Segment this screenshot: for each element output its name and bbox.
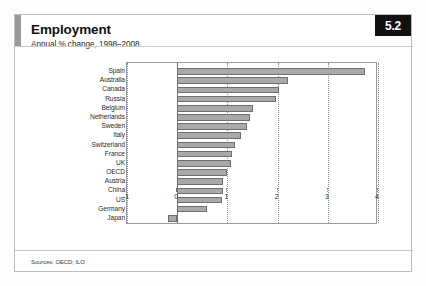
- bar: [177, 142, 235, 149]
- category-label: Spain: [21, 66, 125, 75]
- bar-row: [127, 131, 376, 140]
- bar-row: [127, 141, 376, 150]
- axis-tick-label: 2: [275, 193, 279, 200]
- bar: [177, 87, 278, 94]
- source-note: Sources: OECD; ILO: [31, 259, 85, 265]
- axis-tick-label: 4: [375, 193, 379, 200]
- bar-row: [127, 104, 376, 113]
- category-label: Canada: [21, 84, 125, 93]
- axis-tick-label: -1: [123, 193, 129, 200]
- bar-row: [127, 67, 376, 76]
- category-label: Germany: [21, 204, 125, 213]
- chart-subtitle: Annual % change, 1998–2008: [31, 39, 361, 50]
- category-label: Japan: [21, 213, 125, 222]
- category-label: OECD: [21, 167, 125, 176]
- bar: [177, 77, 287, 84]
- title-accent-bar: [15, 15, 21, 46]
- bar: [177, 206, 207, 213]
- bar: [177, 178, 223, 185]
- figure-number-badge: 5.2: [375, 15, 411, 36]
- bar-row: [127, 76, 376, 85]
- category-label: Switzerland: [21, 140, 125, 149]
- bar: [177, 169, 227, 176]
- axis-tick-label: 0: [174, 193, 178, 200]
- bar-row: [127, 95, 376, 104]
- page-title: Employment: [31, 22, 361, 37]
- category-label: France: [21, 149, 125, 158]
- bar-row: [127, 168, 376, 177]
- category-label: Russia: [21, 94, 125, 103]
- footer-divider: [15, 250, 413, 251]
- category-label: Australia: [21, 75, 125, 84]
- axis-tick-mark: [327, 188, 328, 192]
- bar: [177, 132, 241, 139]
- axis-tick-mark: [126, 188, 127, 192]
- bar: [177, 68, 365, 75]
- category-label: China: [21, 185, 125, 194]
- axis-tick-mark: [226, 188, 227, 192]
- bar-row: [127, 85, 376, 94]
- screenshot-root: Employment Annual % change, 1998–2008 5.…: [0, 0, 426, 286]
- bar-row: [127, 113, 376, 122]
- header-divider: [15, 46, 413, 47]
- bar: [177, 151, 232, 158]
- category-label: Italy: [21, 130, 125, 139]
- category-label: Belgium: [21, 103, 125, 112]
- bar-row: [127, 214, 376, 223]
- chart-card: Employment Annual % change, 1998–2008 5.…: [14, 14, 412, 272]
- axis-tick-mark: [377, 188, 378, 192]
- category-label: Netherlands: [21, 112, 125, 121]
- bar: [177, 114, 250, 121]
- bar: [168, 215, 177, 222]
- plot-area: SpainAustraliaCanadaRussiaBelgiumNetherl…: [15, 51, 413, 241]
- axis-tick-mark: [277, 188, 278, 192]
- category-label: Sweden: [21, 121, 125, 130]
- axis-tick-label: 3: [325, 193, 329, 200]
- category-label: Austria: [21, 176, 125, 185]
- axis-tick-mark: [176, 188, 177, 192]
- category-axis-labels: SpainAustraliaCanadaRussiaBelgiumNetherl…: [21, 66, 125, 222]
- bar: [177, 123, 247, 130]
- bar-row: [127, 150, 376, 159]
- category-label: US: [21, 195, 125, 204]
- bar-row: [127, 122, 376, 131]
- bar: [177, 105, 253, 112]
- value-axis: -101234: [126, 188, 377, 206]
- bar-row: [127, 177, 376, 186]
- axis-tick-label: 1: [225, 193, 229, 200]
- category-label: UK: [21, 158, 125, 167]
- bar-row: [127, 159, 376, 168]
- bar: [177, 160, 231, 167]
- bar-row: [127, 205, 376, 214]
- bar: [177, 96, 275, 103]
